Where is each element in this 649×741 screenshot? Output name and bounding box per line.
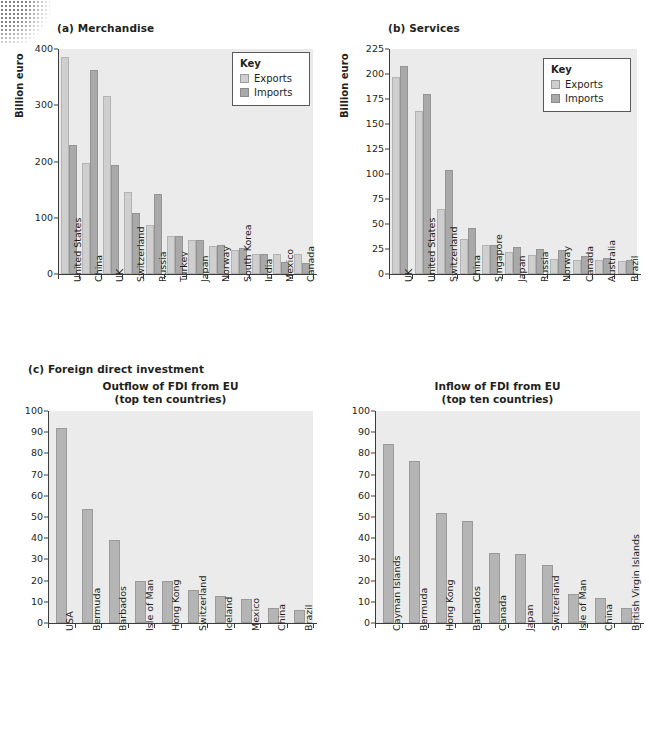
y-axis-tick-mark (44, 474, 48, 475)
x-axis-tick-mark (614, 624, 615, 628)
y-axis-tick-mark (44, 517, 48, 518)
x-axis-category-label: China (277, 604, 287, 631)
fdi-inflow-title-line1: Inflow of FDI from EU (355, 380, 640, 393)
x-axis-tick-mark (228, 275, 229, 279)
fdi-outflow-title: Outflow of FDI from EU (top ten countrie… (28, 380, 313, 405)
x-axis-category-label: Cayman Islands (392, 556, 402, 631)
x-axis-tick-mark (502, 275, 503, 279)
y-axis-tick-mark (44, 432, 48, 433)
x-axis-tick-mark (234, 624, 235, 628)
x-axis-tick-mark (375, 624, 376, 628)
x-axis-tick-mark (143, 275, 144, 279)
y-axis-tick-mark (54, 217, 58, 218)
x-axis-category-label: China (94, 255, 104, 282)
y-axis-tick-mark (54, 49, 58, 50)
legend-swatch-imports-icon (551, 94, 560, 103)
x-axis-category-label: Japan (200, 256, 210, 283)
x-axis-category-label: Turkey (179, 251, 189, 282)
x-axis-tick-mark (79, 275, 80, 279)
x-axis-tick-mark (412, 275, 413, 279)
x-axis-tick-mark (128, 624, 129, 628)
x-axis-category-label: India (264, 259, 274, 282)
bar-imports (400, 66, 408, 274)
y-axis-tick-mark (371, 411, 375, 412)
x-axis-category-label: China (604, 604, 614, 631)
axis-label-billion-euro-b: Billion euro (339, 53, 350, 118)
x-axis-tick-mark (614, 275, 615, 279)
y-axis-tick-mark (44, 538, 48, 539)
x-axis-tick-mark (592, 275, 593, 279)
x-axis-tick-mark (389, 275, 390, 279)
legend-key-merchandise: Key Exports Imports (232, 52, 310, 106)
x-axis-tick-mark (479, 275, 480, 279)
x-axis-tick-mark (207, 624, 208, 628)
x-axis-category-label: United States (73, 218, 83, 282)
legend-label-imports: Imports (254, 86, 292, 100)
x-axis-category-label: Switzerland (136, 227, 146, 282)
legend-swatch-exports-icon (551, 80, 560, 89)
x-axis-category-label: Switzerland (449, 227, 459, 282)
legend-entry-exports: Exports (240, 72, 301, 86)
x-axis-category-label: USA (65, 611, 75, 631)
legend-label-imports: Imports (565, 92, 603, 106)
x-axis-category-label: Canada (498, 595, 508, 631)
y-axis-tick-mark (385, 149, 389, 150)
bar-exports (167, 236, 175, 274)
x-axis-tick-mark (186, 275, 187, 279)
x-axis-tick-mark (569, 275, 570, 279)
legend-title: Key (551, 64, 622, 75)
chart-fdi-inflow: 0102030405060708090100Cayman IslandsBerm… (375, 411, 640, 623)
y-axis-line (48, 411, 49, 624)
y-axis-tick-mark (44, 453, 48, 454)
y-axis-tick-mark (371, 432, 375, 433)
y-axis-tick-mark (385, 74, 389, 75)
x-axis-tick-mark (524, 275, 525, 279)
y-axis-tick-mark (371, 601, 375, 602)
x-axis-tick-mark (313, 624, 314, 628)
x-axis-tick-mark (457, 275, 458, 279)
y-axis-tick-mark (44, 411, 48, 412)
y-axis-tick-mark (371, 474, 375, 475)
y-axis-tick-mark (54, 105, 58, 106)
x-axis-category-label: Brazil (304, 604, 314, 631)
y-axis-tick-mark (385, 249, 389, 250)
panel-c-title: (c) Foreign direct investment (28, 363, 204, 375)
y-axis-tick-mark (371, 538, 375, 539)
x-axis-tick-mark (481, 624, 482, 628)
x-axis-category-label: Isle of Man (145, 580, 155, 631)
x-axis-tick-mark (101, 624, 102, 628)
x-axis-category-label: Isle of Man (578, 580, 588, 631)
x-axis-category-label: Canada (306, 246, 316, 282)
bar-value (56, 428, 67, 623)
x-axis-tick-mark (164, 275, 165, 279)
bar-exports (103, 96, 111, 274)
x-axis-tick-mark (508, 624, 509, 628)
y-axis-tick-mark (385, 99, 389, 100)
x-axis-tick-mark (101, 275, 102, 279)
bar-exports (209, 246, 217, 274)
y-axis-tick-mark (44, 580, 48, 581)
y-axis-tick-mark (385, 199, 389, 200)
y-axis-tick-mark (385, 174, 389, 175)
bar-exports (252, 254, 260, 274)
x-axis-tick-mark (561, 624, 562, 628)
x-axis-category-label: Switzerland (198, 576, 208, 631)
x-axis-category-label: Barbados (118, 586, 128, 631)
y-axis-tick-mark (44, 495, 48, 496)
axis-label-billion-euro-a: Billion euro (14, 53, 25, 118)
bar-exports (61, 57, 69, 274)
bar-exports (188, 240, 196, 274)
bar-exports (573, 260, 581, 274)
x-axis-category-label: Bermuda (419, 588, 429, 631)
bar-exports (595, 260, 603, 274)
x-axis-tick-mark (640, 624, 641, 628)
fdi-outflow-title-line1: Outflow of FDI from EU (28, 380, 313, 393)
bar-exports (460, 239, 468, 274)
x-axis-category-label: UK (115, 269, 125, 282)
x-axis-tick-mark (207, 275, 208, 279)
x-axis-category-label: Mexico (251, 598, 261, 631)
y-axis-tick-mark (385, 49, 389, 50)
x-axis-tick-mark (434, 275, 435, 279)
y-axis-tick-mark (385, 124, 389, 125)
legend-label-exports: Exports (254, 72, 292, 86)
